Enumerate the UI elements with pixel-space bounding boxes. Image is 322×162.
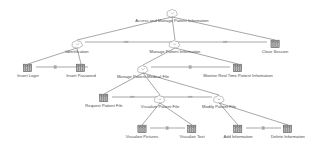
task-node-insert-login[interactable]: Insert Login	[17, 63, 39, 78]
hatched-interaction-task-icon	[22, 63, 33, 73]
cloud-abstract-task-icon	[165, 8, 179, 18]
task-node-label: Insert Login	[17, 73, 39, 78]
temporal-operator-op-l3-a: >>	[130, 95, 135, 99]
task-node-manage-patient-information[interactable]: Manage Patient Information	[150, 39, 201, 54]
cloud-abstract-task-icon	[212, 94, 226, 104]
task-node-add-information[interactable]: Add Information	[223, 124, 252, 139]
task-node-modify-patient-file[interactable]: Modify Patient File	[202, 94, 236, 109]
hatched-interaction-task-icon	[270, 39, 281, 49]
cloud-abstract-task-icon	[168, 39, 182, 49]
task-node-root[interactable]: Access and Manage Patient Information	[135, 8, 208, 23]
hatched-interaction-task-icon	[76, 63, 87, 73]
temporal-operator-op-l1-b: >>	[223, 40, 228, 44]
hatched-interaction-task-icon	[136, 124, 147, 134]
cloud-abstract-task-icon	[70, 39, 84, 49]
temporal-operator-op-l4-b: |||	[262, 126, 265, 130]
task-node-label: Close Session	[262, 49, 288, 54]
hatched-interaction-task-icon	[98, 93, 109, 103]
task-node-label: Request Patient File	[85, 103, 122, 108]
cloud-abstract-task-icon	[153, 94, 167, 104]
task-node-label: Manage Patient Medical File	[117, 74, 169, 79]
task-node-label: Modify Patient File	[202, 104, 236, 109]
task-node-visualize-patient-file[interactable]: Visualize Patient File	[141, 94, 179, 109]
task-node-label: Manage Patient Information	[150, 49, 201, 54]
task-node-visualize-text[interactable]: Visualize Text	[179, 124, 204, 139]
temporal-operator-op-l2-a: |||	[54, 65, 57, 69]
temporal-operator-op-l2-b: |||	[189, 65, 192, 69]
hatched-interaction-task-icon	[233, 63, 244, 73]
temporal-operator-op-l4-a: |||	[166, 126, 169, 130]
task-node-delete-information[interactable]: Delete Information	[271, 124, 305, 139]
task-node-insert-password[interactable]: Insert Password	[66, 63, 96, 78]
task-node-monitor-real-time-patient-information[interactable]: Monitor Real Time Patient Information	[203, 63, 272, 78]
temporal-operator-op-l1-a: >>	[124, 40, 129, 44]
hatched-interaction-task-icon	[283, 124, 294, 134]
operator-connector-lines	[36, 42, 281, 128]
task-node-request-patient-file[interactable]: Request Patient File	[85, 93, 122, 108]
hatched-interaction-task-icon	[232, 124, 243, 134]
hatched-interaction-task-icon	[186, 124, 197, 134]
task-node-label: Delete Information	[271, 134, 305, 139]
task-node-label: Access and Manage Patient Information	[135, 18, 208, 23]
temporal-operator-op-l3-b: >>	[188, 95, 193, 99]
task-node-visualize-pictures[interactable]: Visualize Pictures	[126, 124, 159, 139]
task-tree-diagram: Access and Manage Patient InformationIde…	[0, 0, 322, 162]
task-node-label: Visualize Pictures	[126, 134, 159, 139]
task-node-label: Identification	[65, 49, 88, 54]
task-node-close-session[interactable]: Close Session	[262, 39, 288, 54]
task-node-identification[interactable]: Identification	[65, 39, 88, 54]
task-node-label: Insert Password	[66, 73, 96, 78]
task-node-label: Monitor Real Time Patient Information	[203, 73, 272, 78]
task-node-label: Visualize Patient File	[141, 104, 179, 109]
task-node-label: Add Information	[223, 134, 252, 139]
task-node-label: Visualize Text	[179, 134, 204, 139]
task-node-manage-patient-medical-file[interactable]: Manage Patient Medical File	[117, 64, 169, 79]
cloud-abstract-task-icon	[136, 64, 150, 74]
